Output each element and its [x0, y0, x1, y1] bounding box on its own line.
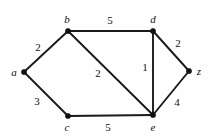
edge-weight-ac: 3 [34, 96, 40, 107]
vertex-label-z: z [197, 66, 201, 77]
vertex-label-a: a [11, 67, 17, 78]
edge-weight-bd: 5 [107, 15, 113, 26]
edge-weight-ez: 4 [174, 97, 180, 108]
vertex-label-e: e [151, 122, 156, 133]
edge-weight-dz: 2 [175, 38, 181, 49]
edge-weight-ab: 2 [35, 42, 41, 53]
vertex-label-d: d [150, 14, 156, 25]
weighted-graph-figure: 23525124abcdez [0, 0, 215, 140]
edge-weight-ce: 5 [105, 122, 111, 133]
vertex-label-b: b [64, 14, 70, 25]
labels-layer: 23525124abcdez [0, 0, 215, 140]
vertex-label-c: c [65, 122, 70, 133]
edge-weight-be: 2 [95, 68, 101, 79]
edge-weight-de: 1 [142, 62, 148, 73]
